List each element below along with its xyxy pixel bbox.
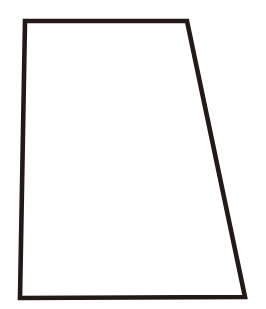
figure-canvas: Trapezoid outline drawing <box>0 0 266 309</box>
shape-drawing-svg: Trapezoid outline drawing <box>0 0 266 309</box>
quadrilateral-shape <box>20 21 245 298</box>
